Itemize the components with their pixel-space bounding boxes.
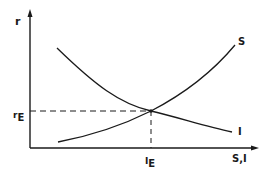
equilibrium-rate-sub: E — [17, 112, 24, 123]
sav-inv-diagram — [0, 0, 270, 175]
equilibrium-rate-label: rE — [13, 105, 24, 121]
equilibrium-quantity-label: IE — [145, 151, 155, 167]
investment-curve — [57, 48, 232, 132]
equilibrium-point — [149, 109, 153, 113]
y-axis-label: r — [15, 16, 20, 27]
savings-curve — [58, 45, 235, 142]
savings-curve-label: S — [238, 37, 245, 47]
equilibrium-quantity-sub: E — [148, 158, 155, 169]
x-axis-arrow-icon — [251, 146, 259, 151]
investment-curve-label: I — [238, 127, 242, 137]
y-axis-arrow-icon — [28, 9, 33, 17]
x-axis-label: S,I — [232, 154, 247, 164]
